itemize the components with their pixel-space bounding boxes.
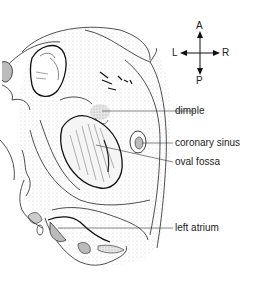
label-coronary-sinus: coronary sinus — [175, 138, 240, 148]
label-left-atrium: left atrium — [175, 223, 219, 233]
label-oval-fossa: oval fossa — [175, 157, 220, 167]
compass-anterior-label: A — [196, 21, 203, 31]
compass-right-label: R — [222, 48, 229, 58]
label-dimple: dimple — [175, 106, 204, 116]
orientation-compass-arrows — [180, 31, 220, 75]
compass-left-label: L — [172, 48, 178, 58]
compass-posterior-label: P — [196, 76, 203, 86]
